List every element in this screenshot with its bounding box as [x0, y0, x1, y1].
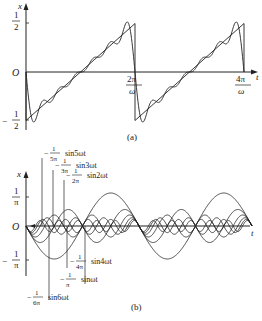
tick-2pi-den: ω: [129, 86, 135, 96]
harmonic-curves: [26, 193, 252, 259]
svg-text:sinωt: sinωt: [81, 275, 99, 284]
svg-text:−: −: [27, 293, 32, 302]
svg-text:sin6ωt: sin6ωt: [48, 293, 70, 302]
svg-text:sin4ωt: sin4ωt: [91, 257, 113, 266]
harmonic-label-6: −16πsin6ωt: [27, 289, 70, 307]
svg-text:sin5ωt: sin5ωt: [65, 149, 87, 158]
harmonic-label-5: −1πsinωt: [60, 271, 99, 289]
panel-b: x t O 1 π − 1 π −15πsin5ωt−13πsin3ωt−12π…: [2, 145, 254, 312]
svg-text:1: 1: [78, 253, 82, 261]
svg-text:1: 1: [63, 157, 67, 165]
svg-text:−: −: [66, 171, 71, 180]
tick-neg-half-sign: −: [2, 116, 7, 126]
svg-text:1: 1: [52, 145, 56, 153]
panel-a-caption: (a): [127, 132, 137, 142]
panel-a-x-label: t: [256, 72, 259, 82]
tick-neg-half-num: 1: [14, 109, 19, 119]
tick-4pi-den: ω: [238, 86, 244, 96]
tick-4pi-num: 4π: [236, 74, 246, 84]
svg-text:−: −: [55, 161, 60, 170]
tick-inv-pi-den: π: [14, 197, 19, 207]
svg-text:1: 1: [35, 289, 39, 297]
tick-neg-inv-pi-sign: −: [2, 256, 7, 266]
panel-b-x-label: t: [251, 228, 254, 238]
svg-text:1: 1: [68, 271, 72, 279]
panel-a-origin: O: [12, 67, 19, 78]
panel-b-caption: (b): [131, 302, 142, 312]
panel-a-y-arrow-icon: [24, 3, 29, 10]
tick-half-num: 1: [14, 10, 19, 20]
panel-b-origin: O: [12, 221, 19, 232]
panel-b-y-arrow-icon: [24, 171, 29, 178]
svg-text:1: 1: [74, 167, 78, 175]
svg-text:−: −: [70, 257, 75, 266]
tick-neg-inv-pi-num: 1: [14, 249, 19, 259]
svg-text:6π: 6π: [33, 299, 41, 307]
svg-text:π: π: [66, 281, 70, 289]
panel-b-y-label: x: [16, 169, 21, 179]
tick-neg-half-den: 2: [14, 121, 19, 131]
svg-text:−: −: [44, 149, 49, 158]
panel-a: x t O 1 2 − 1 2 2π ω 4π ω (a): [2, 1, 259, 142]
svg-text:sin3ωt: sin3ωt: [76, 161, 98, 170]
svg-text:2π: 2π: [72, 177, 80, 185]
tick-half-den: 2: [14, 22, 19, 32]
tick-inv-pi-num: 1: [14, 186, 19, 196]
svg-text:−: −: [60, 275, 65, 284]
harmonic-label-4: −14πsin4ωt: [70, 253, 113, 271]
tick-neg-inv-pi-den: π: [14, 260, 19, 270]
svg-text:4π: 4π: [76, 263, 84, 271]
fourier-figure: x t O 1 2 − 1 2 2π ω 4π ω (a) x t O: [0, 0, 262, 321]
svg-text:sin2ωt: sin2ωt: [87, 171, 109, 180]
